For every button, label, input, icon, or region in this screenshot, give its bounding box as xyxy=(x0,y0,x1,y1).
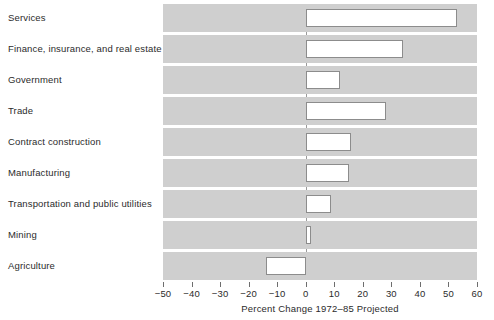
x-axis-tick-label: 20 xyxy=(357,288,368,299)
bar-trade xyxy=(306,102,386,120)
category-label: Services xyxy=(8,12,46,23)
bar-contract-construction xyxy=(306,133,352,151)
x-axis-tick xyxy=(192,282,193,287)
x-axis-tick-label: 10 xyxy=(329,288,340,299)
category-label: Agriculture xyxy=(8,260,55,271)
chart-band xyxy=(163,221,477,249)
category-label: Trade xyxy=(8,105,33,116)
x-axis-tick xyxy=(306,282,307,287)
x-axis-tick-label: 40 xyxy=(414,288,425,299)
x-axis-tick-label: −40 xyxy=(183,288,200,299)
x-axis-tick xyxy=(163,282,164,287)
category-label: Transportation and public utilities xyxy=(8,198,152,209)
category-label-column: ServicesFinance, insurance, and real est… xyxy=(0,0,163,282)
x-axis-tick xyxy=(477,282,478,287)
bar-government xyxy=(306,71,340,89)
x-axis-tick xyxy=(334,282,335,287)
x-axis-tick-label: −10 xyxy=(269,288,286,299)
bar-finance-insurance-and-real-estate xyxy=(306,40,403,58)
x-axis-tick-label: 60 xyxy=(472,288,483,299)
x-axis-tick xyxy=(277,282,278,287)
bar-services xyxy=(306,9,457,27)
bar-mining xyxy=(306,226,312,244)
x-axis-tick-label: 50 xyxy=(443,288,454,299)
category-label: Government xyxy=(8,74,62,85)
x-axis-tick-label: −50 xyxy=(155,288,172,299)
x-axis-tick xyxy=(420,282,421,287)
category-label: Mining xyxy=(8,229,37,240)
category-label: Manufacturing xyxy=(8,167,70,178)
x-axis-tick-label: 0 xyxy=(303,288,308,299)
bar-agriculture xyxy=(266,257,306,275)
x-axis-tick-label: −20 xyxy=(240,288,257,299)
bar-transportation-and-public-utilities xyxy=(306,195,332,213)
x-axis-tick-label: 30 xyxy=(386,288,397,299)
x-axis-title: Percent Change 1972–85 Projected xyxy=(163,303,477,314)
category-label: Finance, insurance, and real estate xyxy=(8,43,162,54)
x-axis-tick-label: −30 xyxy=(212,288,229,299)
x-axis-tick xyxy=(448,282,449,287)
x-axis-tick xyxy=(391,282,392,287)
chart-page: ServicesFinance, insurance, and real est… xyxy=(0,0,494,320)
x-axis-tick xyxy=(220,282,221,287)
x-axis-tick xyxy=(249,282,250,287)
x-axis: −50−40−30−20−100102030405060 xyxy=(163,282,477,320)
plot-area xyxy=(163,4,477,282)
x-axis-tick xyxy=(363,282,364,287)
chart-band xyxy=(163,252,477,280)
bar-manufacturing xyxy=(306,164,349,182)
category-label: Contract construction xyxy=(8,136,101,147)
